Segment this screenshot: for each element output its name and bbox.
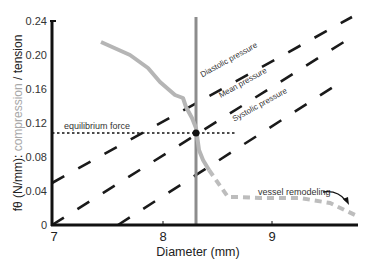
y-tick-012: 0.12 [26, 117, 47, 129]
y-tick-labels: 0 0.04 0.08 0.12 0.16 0.20 0.24 [26, 15, 47, 231]
y-tick-004: 0.04 [26, 185, 47, 197]
equilibrium-force-label: equilibrium force [64, 121, 130, 131]
x-tick-7: 7 [50, 229, 57, 244]
systolic-pressure-line [118, 82, 341, 225]
chart: fθ (N/mm): compression / tension 0 0.04 … [0, 0, 371, 268]
y-tick-008: 0.08 [26, 151, 47, 163]
x-tick-8: 8 [159, 229, 166, 244]
vessel-remodeling-label: vessel remodeling [258, 187, 331, 197]
x-tick-labels: 7 8 9 [50, 229, 275, 244]
equilibrium-point [193, 130, 200, 137]
y-label-prefix: fθ (N/mm): [11, 151, 25, 211]
y-label-compression: compression [11, 83, 25, 151]
x-axis-label: Diameter (mm) [156, 245, 239, 259]
systolic-pressure-label: Systolic pressure [231, 86, 289, 124]
y-tick-0: 0 [41, 219, 47, 231]
y-tick-020: 0.20 [26, 49, 47, 61]
x-tick-9: 9 [268, 229, 275, 244]
y-axis-label: fθ (N/mm): compression / tension [11, 35, 25, 212]
y-tick-024: 0.24 [26, 15, 47, 27]
chart-svg: fθ (N/mm): compression / tension 0 0.04 … [0, 0, 371, 268]
y-tick-016: 0.16 [26, 83, 47, 95]
y-label-suffix: / tension [11, 35, 25, 84]
